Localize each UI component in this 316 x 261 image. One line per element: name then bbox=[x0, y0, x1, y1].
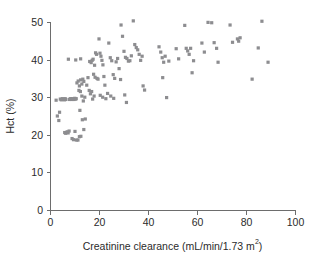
data-point bbox=[177, 57, 180, 60]
data-point bbox=[97, 37, 100, 40]
data-point bbox=[84, 117, 87, 120]
data-point bbox=[189, 47, 192, 50]
data-point bbox=[119, 23, 122, 26]
data-point bbox=[186, 49, 189, 52]
data-point bbox=[192, 59, 195, 62]
data-point bbox=[82, 128, 85, 131]
data-point bbox=[115, 60, 118, 63]
y-tick-label-20: 20 bbox=[31, 129, 43, 141]
data-point bbox=[121, 35, 124, 38]
data-point bbox=[132, 19, 135, 22]
data-point bbox=[165, 96, 168, 99]
data-point bbox=[210, 21, 213, 24]
data-point bbox=[116, 57, 119, 60]
data-point bbox=[79, 135, 82, 138]
data-point bbox=[101, 63, 104, 66]
data-point bbox=[141, 55, 144, 58]
data-point bbox=[79, 57, 82, 60]
data-point bbox=[138, 53, 141, 56]
data-point bbox=[58, 111, 61, 114]
data-point bbox=[74, 58, 77, 61]
data-point bbox=[79, 90, 82, 93]
data-point bbox=[231, 41, 234, 44]
data-point bbox=[257, 46, 260, 49]
data-point bbox=[161, 76, 164, 79]
data-point bbox=[57, 119, 60, 122]
data-point bbox=[162, 61, 165, 64]
data-point bbox=[213, 41, 216, 44]
data-point bbox=[78, 109, 81, 112]
data-point bbox=[82, 80, 85, 83]
data-point bbox=[133, 43, 136, 46]
data-point bbox=[110, 59, 113, 62]
data-point bbox=[107, 41, 110, 44]
data-point bbox=[206, 21, 209, 24]
y-tick-label-10: 10 bbox=[31, 166, 43, 178]
data-point bbox=[139, 59, 142, 62]
data-point bbox=[167, 60, 170, 63]
data-point bbox=[266, 61, 269, 64]
data-point bbox=[90, 90, 93, 93]
data-point bbox=[85, 84, 88, 87]
x-tick-label-0: 0 bbox=[48, 216, 54, 228]
data-point bbox=[82, 99, 85, 102]
data-point bbox=[239, 36, 242, 39]
y-tick-label-50: 50 bbox=[31, 16, 43, 28]
data-point bbox=[109, 94, 112, 97]
data-point bbox=[216, 61, 219, 64]
data-point bbox=[75, 97, 78, 100]
data-point bbox=[55, 99, 58, 102]
axis-tick-labels: 02040608010001020304050 bbox=[31, 16, 304, 228]
data-point bbox=[101, 96, 104, 99]
data-point bbox=[122, 50, 125, 53]
x-tick-label-100: 100 bbox=[287, 216, 305, 228]
chart-canvas: 02040608010001020304050 Hct (%)Creatinin… bbox=[0, 0, 316, 261]
data-point bbox=[83, 96, 86, 99]
axes bbox=[51, 23, 296, 211]
data-point bbox=[68, 129, 71, 132]
data-point bbox=[237, 40, 240, 43]
data-point bbox=[96, 78, 99, 81]
data-point bbox=[143, 88, 146, 91]
data-point bbox=[119, 78, 122, 81]
data-point bbox=[161, 56, 164, 59]
data-point bbox=[67, 58, 70, 61]
x-axis-title: Creatinine clearance (mL/min/1.73 m2) bbox=[83, 238, 263, 253]
data-point bbox=[117, 67, 120, 70]
data-point bbox=[56, 114, 59, 117]
data-point bbox=[93, 94, 96, 97]
data-point bbox=[95, 53, 98, 56]
data-point bbox=[159, 50, 162, 53]
data-point bbox=[123, 93, 126, 96]
data-point bbox=[109, 56, 112, 59]
data-point bbox=[106, 92, 109, 95]
y-tick-label-0: 0 bbox=[37, 204, 43, 216]
data-point bbox=[73, 130, 76, 133]
x-tick-label-80: 80 bbox=[241, 216, 253, 228]
data-point bbox=[130, 54, 133, 57]
data-point bbox=[103, 84, 106, 87]
data-point bbox=[142, 84, 145, 87]
x-tick-label-60: 60 bbox=[192, 216, 204, 228]
data-point bbox=[64, 98, 67, 101]
data-point bbox=[99, 55, 102, 58]
data-point bbox=[112, 97, 115, 100]
data-point bbox=[203, 50, 206, 53]
data-point bbox=[93, 64, 96, 67]
y-tick-label-30: 30 bbox=[31, 91, 43, 103]
y-tick-label-40: 40 bbox=[31, 54, 43, 66]
data-point bbox=[100, 59, 103, 62]
x-tick-label-20: 20 bbox=[94, 216, 106, 228]
data-point bbox=[125, 101, 128, 104]
x-tick-label-40: 40 bbox=[143, 216, 155, 228]
data-point bbox=[81, 118, 84, 121]
data-point bbox=[183, 24, 186, 27]
y-axis-title: Hct (%) bbox=[4, 99, 16, 134]
data-point bbox=[136, 48, 139, 51]
data-point bbox=[200, 41, 203, 44]
data-point bbox=[157, 45, 160, 48]
data-point bbox=[112, 73, 115, 76]
data-point bbox=[188, 53, 191, 56]
data-point bbox=[191, 71, 194, 74]
data-point bbox=[215, 47, 218, 50]
